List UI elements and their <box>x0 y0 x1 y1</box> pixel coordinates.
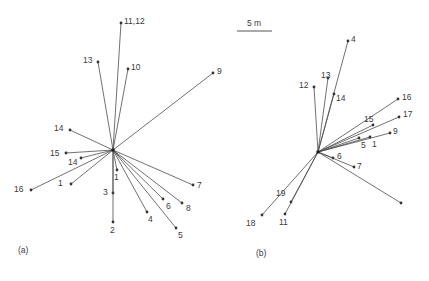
vector-tip-dot <box>284 213 287 216</box>
vector-tip-dot <box>181 202 184 205</box>
vector-tip-dot <box>400 202 403 205</box>
vector-label: 1 <box>372 139 377 149</box>
vector-b-14[interactable]: 19 <box>276 152 318 203</box>
vector-tip-dot <box>120 22 123 25</box>
vector-line <box>113 150 163 199</box>
panel-b: 413121416171595167191118(b) <box>246 34 413 258</box>
vector-tip-dot <box>116 169 119 172</box>
vector-tip-dot <box>192 184 195 187</box>
vector-label: 4 <box>351 34 356 44</box>
vector-a-6[interactable]: 15 <box>50 148 113 158</box>
vector-label: 16 <box>14 184 24 194</box>
vector-line <box>113 150 176 228</box>
vector-label: 14 <box>68 157 78 167</box>
vector-label: 17 <box>403 109 413 119</box>
vector-label: 3 <box>103 187 108 197</box>
vector-tip-dot <box>162 198 165 201</box>
vector-label: 13 <box>83 55 93 65</box>
vector-label: 18 <box>246 218 256 228</box>
vector-tip-dot <box>389 132 392 135</box>
vector-label: 15 <box>364 114 374 124</box>
vector-line <box>70 130 113 150</box>
scale-bar: 5 m <box>237 18 272 31</box>
panel-hub-a <box>111 148 115 152</box>
vector-tip-dot <box>397 98 400 101</box>
vector-a-5[interactable]: 14 <box>54 123 113 150</box>
vector-label: 15 <box>50 148 60 158</box>
vector-label: 14 <box>336 93 346 103</box>
vector-label: 10 <box>131 62 141 72</box>
vector-label: 7 <box>197 180 202 190</box>
vector-line <box>314 87 318 152</box>
vector-line <box>262 152 318 215</box>
vector-label: 9 <box>393 126 398 136</box>
vector-tip-dot <box>358 137 361 140</box>
vector-tip-dot <box>65 152 68 155</box>
vector-label: 2 <box>110 225 115 235</box>
vector-label: 13 <box>321 70 331 80</box>
vector-line <box>113 23 121 150</box>
vector-line <box>113 150 193 185</box>
vector-tip-dot <box>146 211 149 214</box>
vector-tip-dot <box>353 166 356 169</box>
vector-tip-dot <box>333 93 336 96</box>
vector-a-8[interactable]: 16 <box>14 150 113 194</box>
vector-label: 16 <box>402 92 412 102</box>
vector-tip-dot <box>369 136 372 139</box>
vector-tip-dot <box>30 189 33 192</box>
vector-tip-dot <box>112 221 115 224</box>
vector-label: 6 <box>337 151 342 161</box>
panel-a: 11,121310914151416113245687(a) <box>14 16 222 255</box>
panel-hub-b <box>316 150 320 154</box>
vector-label: 12 <box>299 80 309 90</box>
vector-line <box>318 78 328 152</box>
vector-a-9[interactable]: 1 <box>58 150 113 188</box>
vector-line <box>318 117 399 152</box>
vector-label: 11 <box>279 217 288 227</box>
vector-diagram-svg: 5 m11,121310914151416113245687(a)4131214… <box>0 0 429 281</box>
vector-tip-dot <box>372 124 375 127</box>
vector-tip-dot <box>347 40 350 43</box>
scale-bar-label: 5 m <box>247 18 261 28</box>
vector-b-13[interactable] <box>318 152 402 204</box>
vector-line <box>98 62 113 150</box>
vector-a-3[interactable]: 10 <box>113 62 141 150</box>
vector-label: 5 <box>361 140 366 150</box>
vector-label: 14 <box>54 123 64 133</box>
vector-label: 1 <box>114 172 119 182</box>
vector-tip-dot <box>261 214 264 217</box>
vector-tip-dot <box>212 72 215 75</box>
vector-a-16[interactable]: 8 <box>113 150 191 213</box>
vector-tip-dot <box>70 183 73 186</box>
vector-a-4[interactable]: 9 <box>113 66 222 150</box>
vector-label: 1 <box>58 178 63 188</box>
figure-canvas: 5 m11,121310914151416113245687(a)4131214… <box>0 0 429 281</box>
vector-label: 5 <box>178 230 183 240</box>
vector-a-13[interactable]: 4 <box>113 150 153 224</box>
vector-b-10[interactable]: 1 <box>318 136 377 152</box>
vector-label: 4 <box>148 214 153 224</box>
vector-line <box>318 152 354 167</box>
vector-tip-dot <box>398 116 401 119</box>
vector-a-15[interactable]: 6 <box>113 150 171 211</box>
vector-tip-dot <box>127 68 130 71</box>
vector-label: 6 <box>166 201 171 211</box>
vector-line <box>113 73 213 150</box>
vector-tip-dot <box>313 86 316 89</box>
vector-a-14[interactable]: 5 <box>113 150 183 240</box>
vector-a-1[interactable]: 11,12 <box>113 16 145 150</box>
vector-line <box>113 150 182 203</box>
vector-label: 9 <box>217 66 222 76</box>
vector-label: 7 <box>357 161 362 171</box>
vector-label: 8 <box>186 203 191 213</box>
panel-caption-b: (b) <box>256 248 267 258</box>
vector-tip-dot <box>175 227 178 230</box>
vector-tip-dot <box>97 61 100 64</box>
vector-a-2[interactable]: 13 <box>83 55 113 150</box>
panel-caption-a: (a) <box>18 245 29 255</box>
vector-label: 11,12 <box>124 16 145 26</box>
vector-line <box>318 152 401 203</box>
vector-b-3[interactable]: 12 <box>299 80 318 152</box>
vector-tip-dot <box>80 157 83 160</box>
vector-tip-dot <box>69 129 72 132</box>
